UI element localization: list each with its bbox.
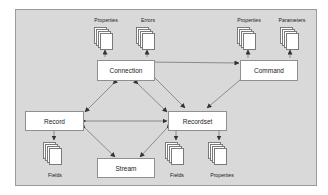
command-properties-label: Properties <box>237 17 261 23</box>
connector-lines <box>0 0 328 195</box>
connection-errors-collection-icon <box>136 27 160 49</box>
command-properties-collection-icon <box>237 27 261 49</box>
command-parameters-collection-icon <box>280 27 304 49</box>
stream-node: Stream <box>97 158 155 178</box>
stream-label: Stream <box>116 165 137 172</box>
record-node: Record <box>25 111 84 131</box>
recordset-properties-collection-icon <box>208 142 232 164</box>
recordset-fields-label: Fields <box>170 172 184 178</box>
recordset-properties-label: Properties <box>210 172 234 178</box>
connection-node: Connection <box>97 60 155 81</box>
command-node: Command <box>240 60 298 81</box>
connection-properties-label: Properties <box>94 17 118 23</box>
record-fields-label: Fields <box>48 172 62 178</box>
connection-properties-collection-icon <box>94 27 118 49</box>
connection-label: Connection <box>110 67 143 74</box>
command-parameters-label: Parameters <box>279 17 306 23</box>
recordset-label: Recordset <box>183 118 213 125</box>
record-label: Record <box>44 118 65 125</box>
command-label: Command <box>254 67 284 74</box>
recordset-node: Recordset <box>168 111 227 131</box>
recordset-fields-collection-icon <box>165 142 189 164</box>
connection-errors-label: Errors <box>141 17 155 23</box>
record-fields-collection-icon <box>43 142 67 164</box>
